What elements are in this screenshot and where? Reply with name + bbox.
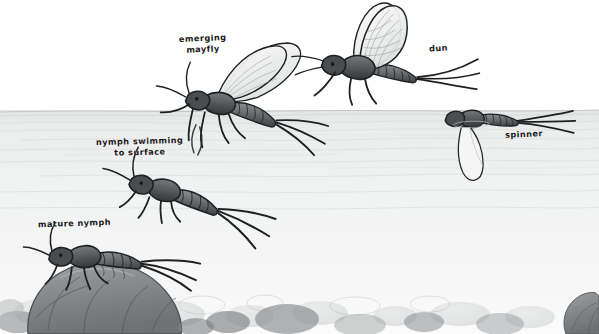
emerger-antennae — [156, 60, 191, 97]
label-emerging-mayfly: emerging mayfly — [179, 32, 227, 55]
dun-tails — [417, 57, 480, 89]
mayfly-life-cycle-illustration: emerging mayfly nymph swimming to surfac… — [0, 0, 599, 334]
label-spinner: spinner — [505, 128, 543, 140]
label-nymph-swimming: nymph swimming to surface — [96, 135, 184, 158]
label-dun: dun — [429, 43, 448, 54]
stage-dun — [290, 0, 481, 109]
illustration-canvas — [0, 0, 599, 334]
